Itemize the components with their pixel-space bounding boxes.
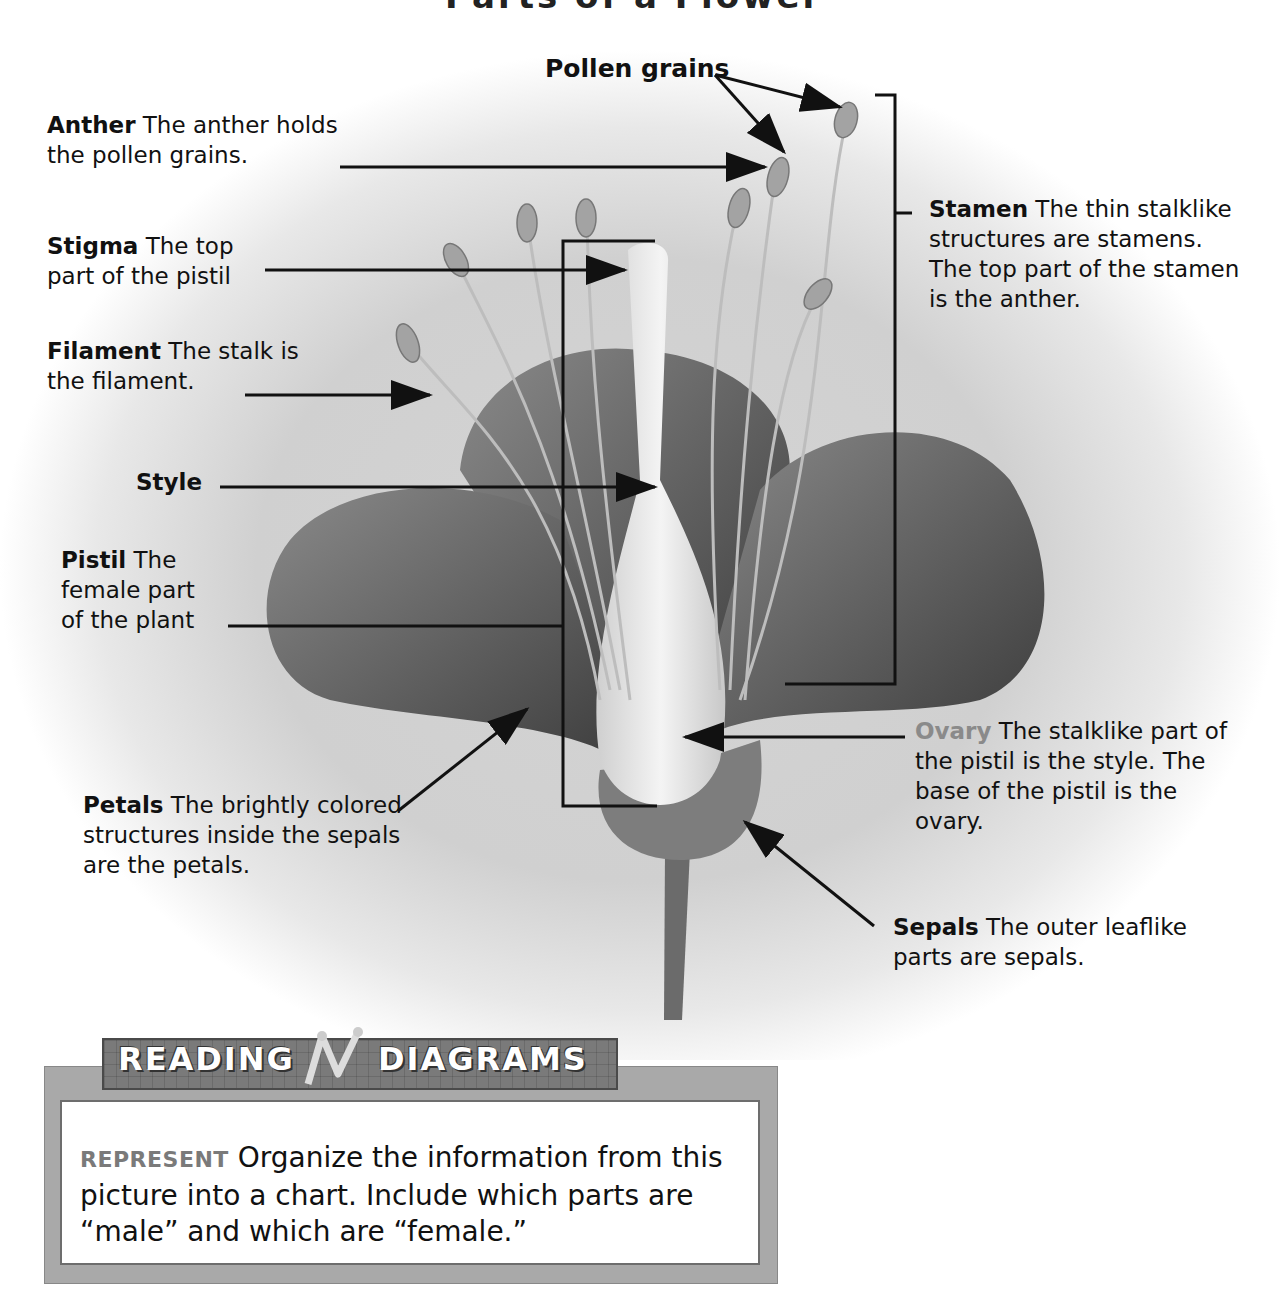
term-stigma: Stigma	[47, 233, 138, 259]
term-style: Style	[136, 469, 202, 495]
label-anther: Anther The anther holds the pollen grain…	[47, 110, 347, 170]
term-pistil: Pistil	[61, 547, 126, 573]
label-ovary: Ovary The stalklike part of the pistil i…	[915, 716, 1245, 836]
graph-line-icon	[300, 1024, 370, 1088]
label-sepals: Sepals The outer leaflike parts are sepa…	[893, 912, 1223, 972]
banner-diagrams: DIAGRAMS	[378, 1040, 588, 1078]
stem	[664, 850, 690, 1020]
term-petals: Petals	[83, 792, 164, 818]
label-stamen: Stamen The thin stalklike structures are…	[929, 194, 1249, 314]
label-petals: Petals The brightly colored structures i…	[83, 790, 403, 880]
label-pistil: Pistil The female part of the plant	[61, 545, 221, 635]
reading-diagrams-prompt: REPRESENT Organize the information from …	[80, 1140, 740, 1250]
term-filament: Filament	[47, 338, 161, 364]
label-filament: Filament The stalk is the filament.	[47, 336, 312, 396]
label-style: Style	[136, 467, 202, 497]
term-sepals: Sepals	[893, 914, 979, 940]
label-stigma: Stigma The top part of the pistil	[47, 231, 277, 291]
label-pollen-grains: Pollen grains	[545, 54, 729, 84]
term-ovary: Ovary	[915, 718, 991, 744]
banner-reading: READING	[118, 1040, 295, 1078]
term-anther: Anther	[47, 112, 136, 138]
keyword-represent: REPRESENT	[80, 1147, 229, 1172]
term-stamen: Stamen	[929, 196, 1028, 222]
